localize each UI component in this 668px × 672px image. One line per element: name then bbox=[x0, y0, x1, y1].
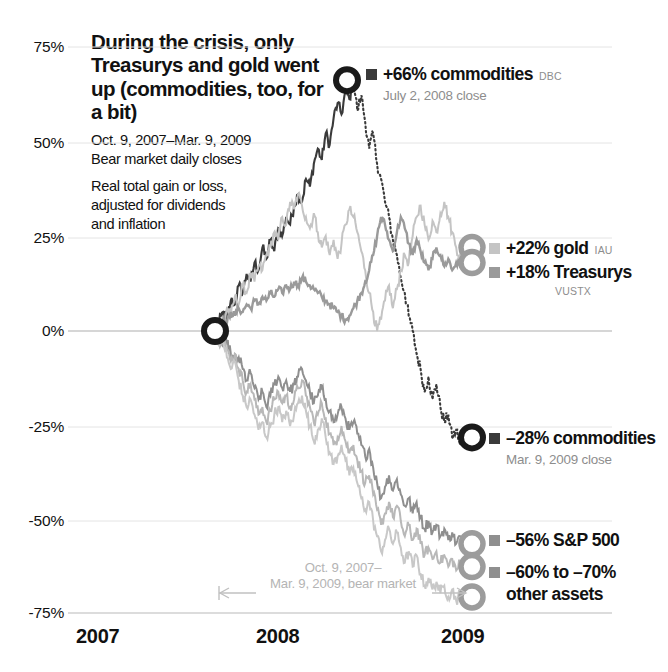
bear-market-note: Oct. 9, 2007– Mar. 9, 2009, bear market bbox=[232, 560, 454, 592]
legend-swatch-gold bbox=[489, 243, 500, 254]
callout-commodities-end-note: Mar. 9, 2009 close bbox=[506, 452, 656, 467]
callout-commodities-peak-ticker: DBC bbox=[539, 70, 562, 82]
callout-treasurys: +18% Treasurys VUSTX bbox=[489, 262, 632, 297]
callout-other-assets: –60% to –70% other assets bbox=[489, 562, 616, 605]
legend-swatch-commodities-end bbox=[489, 433, 500, 444]
callout-gold-ticker: IAU bbox=[595, 244, 613, 256]
series-layer bbox=[72, 80, 472, 605]
callout-treasurys-value: +18% Treasurys bbox=[506, 262, 632, 283]
marker-commodities-end bbox=[461, 426, 483, 448]
marker-sp500-end bbox=[461, 533, 483, 555]
marker-treasurys-end bbox=[461, 252, 483, 274]
callout-commodities-peak-note: July 2, 2008 close bbox=[383, 88, 562, 103]
bear-note-line2: Mar. 9, 2009, bear market bbox=[232, 576, 454, 592]
callout-sp500-value: –56% S&P 500 bbox=[506, 530, 619, 551]
legend-swatch-treasurys bbox=[489, 267, 500, 278]
callout-commodities-peak: +66% commodities DBC July 2, 2008 close bbox=[366, 64, 562, 103]
legend-swatch-commodities bbox=[366, 69, 377, 80]
marker-commodities-peak bbox=[336, 69, 358, 91]
gridlines bbox=[68, 47, 612, 613]
chart-root: 75% 50% 25% 0% -25% -50% -75% 2007 2008 … bbox=[0, 0, 668, 672]
marker-layer bbox=[204, 69, 483, 608]
bear-note-line1: Oct. 9, 2007– bbox=[232, 560, 454, 576]
marker-other-a-end bbox=[461, 556, 483, 578]
callout-gold-value: +22% gold bbox=[506, 238, 589, 259]
marker-origin bbox=[204, 320, 226, 342]
callout-gold: +22% gold IAU bbox=[489, 238, 613, 259]
series-line-gold bbox=[215, 193, 472, 331]
callout-sp500: –56% S&P 500 bbox=[489, 530, 619, 551]
marker-other-b-end bbox=[461, 586, 483, 608]
callout-commodities-end: –28% commodities Mar. 9, 2009 close bbox=[489, 428, 656, 467]
callout-commodities-peak-value: +66% commodities bbox=[383, 64, 533, 85]
callout-treasurys-ticker: VUSTX bbox=[555, 285, 632, 297]
legend-swatch-sp500 bbox=[489, 535, 500, 546]
legend-swatch-other-assets bbox=[489, 567, 500, 578]
callout-commodities-end-value: –28% commodities bbox=[506, 428, 656, 449]
callout-other-assets-value: –60% to –70% bbox=[506, 562, 616, 583]
callout-other-assets-value2: other assets bbox=[506, 584, 616, 605]
